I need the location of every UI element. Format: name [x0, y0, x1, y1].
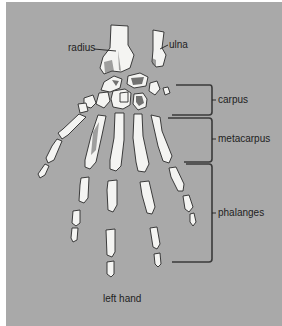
radius-bone	[100, 25, 134, 74]
metacarpus-label: metacarpus	[218, 134, 270, 144]
middle-finger-bones	[106, 113, 124, 277]
carpal-bones	[78, 73, 170, 113]
carpus-bracket	[172, 85, 212, 115]
carpus-label: carpus	[218, 95, 248, 105]
hand-skeleton-illustration	[6, 2, 282, 326]
little-finger-bones	[151, 115, 196, 226]
phalanges-label: phalanges	[218, 208, 264, 218]
index-finger-bones	[71, 115, 106, 242]
metacarpus-bracket	[168, 118, 212, 162]
radius-label: radius	[68, 43, 95, 53]
caption-left-hand: left hand	[103, 294, 141, 304]
diagram-canvas: radius ulna carpus metacarpus phalanges …	[6, 2, 282, 326]
ulna-bone	[152, 30, 166, 67]
thumb-bones	[38, 114, 86, 178]
ulna-label: ulna	[169, 40, 188, 50]
